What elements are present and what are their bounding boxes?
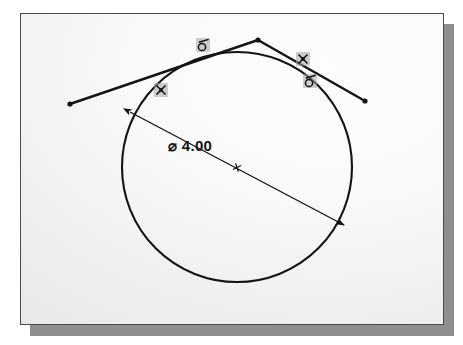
coincident-constraint-right[interactable] — [296, 52, 310, 66]
endpoint-right[interactable] — [362, 98, 367, 103]
endpoint-apex[interactable] — [255, 37, 260, 42]
tangent-line-right[interactable] — [258, 40, 365, 101]
scanned-figure: ⌀ 4.00 — [0, 0, 463, 345]
tangent-constraint-right[interactable] — [303, 74, 317, 88]
diameter-dimension-label[interactable]: ⌀ 4.00 — [168, 137, 212, 155]
cad-sketch-canvas — [0, 0, 463, 345]
endpoint-left[interactable] — [67, 101, 72, 106]
coincident-constraint-left[interactable] — [154, 83, 168, 97]
tangent-constraint-top-left[interactable] — [196, 38, 210, 52]
